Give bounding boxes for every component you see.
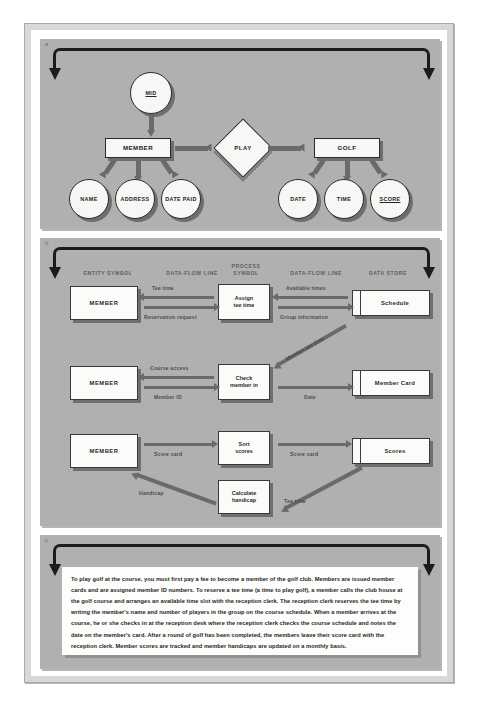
figure-inner-frame: a MID MEMBER PLAY GOLF <box>31 30 447 676</box>
bracket-arrowhead-right-icon <box>423 68 435 80</box>
bracket-arrowhead-left-icon <box>49 267 61 279</box>
flow-arrowhead-right-icon <box>212 440 218 448</box>
flow-arrowhead-left-icon <box>138 293 144 301</box>
narrative-paragraph: To play golf at the course, you must fir… <box>71 574 409 652</box>
dfd-flow-group-information <box>278 306 348 309</box>
dfd-flow-label-handicap: Handicap <box>139 490 164 496</box>
flow-arrowhead-diagonal-icon <box>279 505 289 515</box>
dfd-header-data-flow-line-right: DATA-FLOW LINE <box>274 270 358 277</box>
flow-arrowhead-left-icon <box>272 293 278 301</box>
erd-attribute-date: DATE <box>278 179 318 219</box>
bracket-arrowhead-left-icon <box>49 68 61 80</box>
erd-arrowhead-mid-member-icon <box>147 130 155 137</box>
dfd-flow-date <box>278 386 348 389</box>
panel-letter-a: a <box>45 41 49 47</box>
dfd-flow-available-times <box>278 296 348 299</box>
dfd-flow-label-date: Date <box>304 394 316 400</box>
dfd-header-process-symbol: PROCESS SYMBOL <box>216 263 276 277</box>
panel-a-erd: a MID MEMBER PLAY GOLF <box>40 39 440 229</box>
flow-arrowhead-diagonal-icon <box>130 470 139 480</box>
erd-arrow-member-play <box>175 146 208 151</box>
flow-arrowhead-right-icon <box>346 440 352 448</box>
dfd-flow-course-access <box>144 376 214 379</box>
flow-arrowhead-left-icon <box>138 373 144 381</box>
dfd-process-assign-tee-time: Assign tee time <box>218 284 270 320</box>
dfd-header-data-store: DATA STORE <box>352 270 424 277</box>
erd-attribute-address: ADDRESS <box>115 179 155 219</box>
bracket-arrowhead-right-icon <box>423 564 435 576</box>
panel-letter-c: c <box>45 537 48 543</box>
store-tab <box>353 291 361 315</box>
dfd-flow-label-group-information: Group information <box>280 314 328 320</box>
store-tab <box>353 439 361 463</box>
panel-b-dfd: b ENTITY SYMBOL DATA-FLOW LINE PROCESS S… <box>40 238 440 526</box>
narrative-text-box: To play golf at the course, you must fir… <box>62 567 418 655</box>
dfd-entity-member-3: MEMBER <box>70 434 138 468</box>
panel-letter-b: b <box>45 240 49 246</box>
dfd-flow-label-tee-time-2: Tee time <box>284 498 306 504</box>
dfd-flow-label-score-card-1: Score card <box>154 451 182 457</box>
bracket-arrowhead-left-icon <box>49 564 61 576</box>
flow-arrowhead-right-icon <box>214 383 220 391</box>
erd-attribute-score: SCORE <box>370 179 410 219</box>
erd-entity-golf: GOLF <box>314 138 380 158</box>
dfd-flow-label-score-card-2: Score card <box>290 451 318 457</box>
erd-attribute-time: TIME <box>324 179 364 219</box>
figure-outer-frame: a MID MEMBER PLAY GOLF <box>24 23 454 683</box>
bracket-arrowhead-right-icon <box>423 267 435 279</box>
dfd-flow-score-card-2 <box>278 443 346 446</box>
dfd-entity-member-1: MEMBER <box>70 286 138 320</box>
flow-arrowhead-right-icon <box>348 303 354 311</box>
dfd-store-member-card: Member Card <box>352 370 430 396</box>
flow-arrowhead-diagonal-icon <box>272 361 282 371</box>
dfd-flow-label-course-access: Course access <box>150 365 189 371</box>
erd-arrowhead-play-golf-icon <box>298 144 305 152</box>
dfd-flow-label-available-times: Available times <box>286 285 326 291</box>
dfd-flow-score-card-1 <box>144 443 212 446</box>
dfd-process-check-member-in: Check member in <box>218 364 270 400</box>
erd-arrow-play-golf <box>268 146 301 151</box>
bracket-arrow-a <box>53 48 430 68</box>
dfd-entity-member-2: MEMBER <box>70 366 138 400</box>
dfd-flow-label-member-id: Member ID <box>154 394 182 400</box>
dfd-flow-label-tee-time: Tee time <box>152 285 174 291</box>
panel-c-narrative: c To play golf at the course, you must f… <box>40 535 440 669</box>
dfd-store-scores: Scores <box>352 438 430 464</box>
dfd-flow-member-id <box>144 386 214 389</box>
dfd-header-entity-symbol: ENTITY SYMBOL <box>66 270 150 277</box>
erd-attribute-name: NAME <box>69 179 109 219</box>
erd-attribute-mid: MID <box>130 72 172 114</box>
erd-entity-member: MEMBER <box>105 138 171 158</box>
dfd-flow-label-member-tee-time: Member tee time <box>285 335 326 361</box>
store-tab <box>353 371 361 395</box>
dfd-flow-tee-time <box>144 296 214 299</box>
flow-arrowhead-right-icon <box>214 303 220 311</box>
dfd-store-schedule: Schedule <box>352 290 430 316</box>
dfd-process-sort-scores: Sort scores <box>218 431 270 465</box>
erd-arrowhead-member-play-icon <box>205 144 212 152</box>
flow-arrowhead-right-icon <box>348 383 354 391</box>
dfd-flow-label-reservation-request: Reservation request <box>144 314 197 320</box>
bracket-arrow-c <box>53 544 430 564</box>
erd-attribute-date-paid: DATE PAID <box>161 179 201 219</box>
dfd-flow-reservation-request <box>144 306 214 309</box>
dfd-process-calculate-handicap: Calculate handicap <box>218 480 270 514</box>
erd-relationship-play: PLAY <box>222 127 264 169</box>
